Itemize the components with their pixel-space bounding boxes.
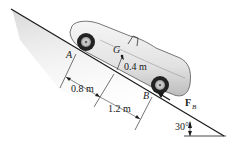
label-dim-a-g: 0.8 m — [71, 83, 94, 94]
label-dim-g-b: 1.2 m — [108, 103, 131, 114]
diagram-canvas: A G B 0.4 m 0.8 m 1.2 m F B 30° — [0, 0, 237, 150]
label-point-g: G — [113, 44, 120, 55]
label-dim-height: 0.4 m — [124, 61, 147, 72]
label-point-a: A — [65, 49, 73, 60]
wheel-b — [151, 76, 169, 94]
wheel-a — [77, 33, 95, 51]
label-force-main: F — [185, 97, 191, 108]
label-force-sub: B — [192, 103, 197, 111]
incline-surface — [11, 9, 224, 136]
label-point-b: B — [143, 90, 149, 101]
label-angle: 30° — [175, 121, 189, 132]
